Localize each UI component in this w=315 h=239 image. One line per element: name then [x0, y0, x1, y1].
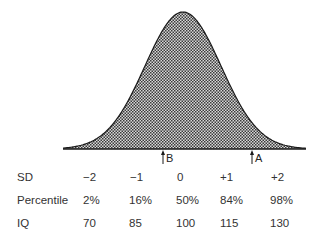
sd-value: +2 — [271, 169, 284, 185]
percentile-row: Percentile 2% 16% 50% 84% 98% — [0, 192, 315, 208]
percentile-value: 50% — [176, 192, 199, 208]
arrow-marker-a-icon — [250, 150, 254, 164]
sd-row: SD −2 −1 0 +1 +2 — [0, 169, 315, 185]
iq-value: 70 — [83, 215, 96, 231]
sd-value: −1 — [130, 169, 143, 185]
percentile-value: 84% — [220, 192, 243, 208]
normal-distribution-curve — [0, 0, 315, 170]
sd-value: +1 — [220, 169, 233, 185]
percentile-value: 98% — [270, 192, 293, 208]
sd-value: 0 — [177, 169, 183, 185]
iq-value: 85 — [129, 215, 142, 231]
bell-curve-area — [63, 12, 306, 149]
sd-row-label: SD — [17, 169, 33, 185]
iq-value: 130 — [270, 215, 289, 231]
iq-value: 115 — [220, 215, 238, 231]
percentile-value: 16% — [129, 192, 152, 208]
iq-value: 100 — [176, 215, 195, 231]
percentile-row-label: Percentile — [17, 192, 68, 208]
arrow-marker-b-icon — [161, 150, 165, 164]
marker-a-label: A — [255, 152, 262, 164]
percentile-value: 2% — [83, 192, 100, 208]
iq-row-label: IQ — [17, 215, 29, 231]
iq-row: IQ 70 85 100 115 130 — [0, 215, 315, 231]
sd-value: −2 — [83, 169, 96, 185]
marker-b-label: B — [166, 152, 173, 164]
